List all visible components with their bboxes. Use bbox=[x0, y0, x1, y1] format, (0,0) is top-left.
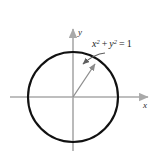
figure-canvas: y x x2+y2=1 bbox=[0, 0, 156, 157]
radius-arrow bbox=[73, 64, 95, 97]
equation-y-exponent: 2 bbox=[114, 38, 118, 45]
x-axis-label: x bbox=[142, 100, 147, 110]
unit-circle-figure: y x x2+y2=1 bbox=[0, 0, 156, 157]
equation-right-hand-side: 1 bbox=[127, 38, 132, 49]
equation-x-exponent: 2 bbox=[96, 38, 100, 45]
y-axis-label: y bbox=[77, 27, 82, 37]
svg-text:x2+y2=1: x2+y2=1 bbox=[91, 38, 132, 50]
equation-plus-sign: + bbox=[102, 38, 108, 49]
circle-equation-label: x2+y2=1 bbox=[91, 38, 132, 50]
equation-equals-sign: = bbox=[119, 38, 125, 49]
